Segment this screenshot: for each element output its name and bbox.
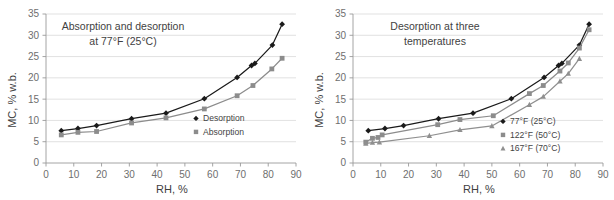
chart-title-line1: Absorption and desorption [62, 20, 185, 32]
x-tick-label: 80 [570, 169, 582, 180]
legend-item[interactable]: 122°F (50°C) [501, 130, 561, 140]
x-axis-title: RH, % [463, 183, 495, 195]
chart-title-line2: at 77°F (25°C) [89, 35, 156, 47]
series-2 [59, 56, 285, 137]
data-point [435, 122, 440, 127]
y-axis-title: MC, % w.b. [313, 72, 325, 128]
legend-label: 77°F (25°C) [510, 116, 556, 126]
y-tick-label: 15 [335, 94, 347, 105]
data-point [491, 113, 496, 118]
x-tick-label: 0 [350, 169, 356, 180]
figure-sheet: 05101520253035 0102030405060708090 MC, %… [0, 0, 614, 200]
axes-right [350, 14, 604, 167]
y-tick-label: 20 [28, 72, 40, 83]
data-point [587, 27, 592, 32]
data-point [280, 56, 285, 61]
x-tick-label: 90 [290, 169, 302, 180]
data-point [382, 126, 388, 132]
data-point [164, 115, 169, 120]
legend-right: 77°F (25°C)122°F (50°C)167°F (70°C) [500, 116, 560, 153]
tick-labels-y-left: 05101520253035 [28, 8, 40, 168]
gridlines-left [46, 14, 296, 142]
y-tick-label: 35 [28, 8, 40, 19]
tick-labels-y-right: 05101520253035 [335, 8, 347, 168]
data-point [401, 123, 407, 129]
x-tick-label: 30 [431, 169, 443, 180]
legend-item[interactable]: Desorption [193, 113, 244, 123]
series-line [61, 58, 282, 135]
data-point [59, 133, 64, 138]
gridlines-right [353, 14, 603, 142]
chart-svg-left: 05101520253035 0102030405060708090 MC, %… [0, 0, 307, 200]
x-tick-label: 10 [375, 169, 387, 180]
data-point [365, 128, 371, 134]
data-point [380, 133, 385, 138]
x-tick-label: 40 [459, 169, 471, 180]
x-tick-label: 20 [403, 169, 415, 180]
data-point [279, 21, 285, 27]
legend-item[interactable]: 167°F (70°C) [501, 143, 561, 153]
series-line [368, 24, 589, 130]
x-tick-label: 50 [179, 169, 191, 180]
data-point [235, 93, 240, 98]
data-point [458, 117, 463, 122]
chart-svg-right: 05101520253035 0102030405060708090 MC, %… [307, 0, 614, 200]
data-point [527, 91, 532, 96]
legend-item[interactable]: 77°F (25°C) [500, 116, 555, 126]
x-tick-label: 30 [124, 169, 136, 180]
data-point [541, 83, 546, 88]
axes-left [43, 14, 297, 167]
y-tick-label: 5 [340, 136, 346, 147]
y-tick-label: 0 [33, 157, 39, 168]
y-tick-label: 20 [335, 72, 347, 83]
tick-labels-x-right: 0102030405060708090 [350, 169, 609, 180]
y-tick-label: 0 [340, 157, 346, 168]
chart-panel-left: 05101520253035 0102030405060708090 MC, %… [0, 0, 307, 200]
data-point [269, 67, 274, 72]
x-tick-label: 20 [96, 169, 108, 180]
legend-item[interactable]: Absorption [194, 127, 245, 137]
data-point [558, 69, 563, 74]
y-axis-title: MC, % w.b. [6, 72, 18, 128]
y-tick-label: 30 [335, 30, 347, 41]
y-tick-label: 10 [335, 115, 347, 126]
legend-label: 122°F (50°C) [510, 130, 560, 140]
legend-marker-square [501, 133, 505, 137]
data-point [202, 107, 207, 112]
chart-title-line1: Desorption at three [390, 20, 479, 32]
y-tick-label: 5 [33, 136, 39, 147]
chart-panel-right: 05101520253035 0102030405060708090 MC, %… [307, 0, 614, 200]
data-point [129, 121, 134, 126]
y-tick-label: 35 [335, 8, 347, 19]
legend-label: Absorption [203, 127, 244, 137]
x-tick-label: 10 [68, 169, 80, 180]
x-tick-label: 80 [263, 169, 275, 180]
x-tick-label: 0 [43, 169, 49, 180]
legend-marker-diamond [500, 119, 505, 124]
series-1 [365, 21, 592, 133]
legend-marker-square [194, 130, 198, 134]
data-point [94, 129, 99, 134]
x-tick-label: 40 [152, 169, 164, 180]
y-tick-label: 15 [28, 94, 40, 105]
legend-marker-triangle [501, 146, 506, 151]
x-tick-label: 90 [597, 169, 609, 180]
data-point [163, 110, 169, 116]
y-tick-label: 25 [335, 51, 347, 62]
data-point [586, 21, 592, 27]
legend-label: 167°F (70°C) [510, 143, 560, 153]
data-point [577, 46, 582, 51]
y-tick-label: 30 [28, 30, 40, 41]
data-point [251, 83, 256, 88]
x-tick-label: 70 [542, 169, 554, 180]
x-tick-label: 70 [235, 169, 247, 180]
data-point [527, 102, 532, 107]
legend-label: Desorption [203, 113, 245, 123]
data-point [376, 135, 381, 140]
y-tick-label: 10 [28, 115, 40, 126]
chart-title-line2: temperatures [404, 35, 466, 47]
x-tick-label: 60 [514, 169, 526, 180]
legend-left: DesorptionAbsorption [193, 113, 244, 137]
x-axis-title: RH, % [156, 183, 188, 195]
data-point [566, 61, 571, 66]
